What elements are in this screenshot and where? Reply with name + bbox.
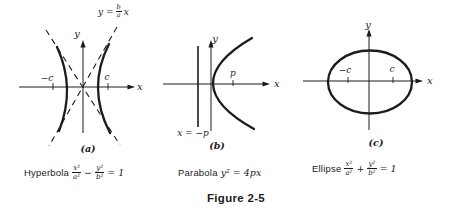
ellipse-y-axis-arrow-icon bbox=[366, 29, 371, 37]
ellipse-fraction-2: y² b² bbox=[367, 160, 376, 177]
caption-parabola-name: Parabola bbox=[178, 167, 218, 178]
parabola-directrix-label: x = −p bbox=[177, 128, 209, 138]
ellipse-frac1-denominator: a² bbox=[344, 168, 353, 177]
hyperbola-operator: − bbox=[84, 167, 92, 178]
hyperbola-equals-one: = 1 bbox=[107, 167, 124, 178]
ellipse-operator: + bbox=[356, 163, 364, 174]
parabola-plot: x y p x = −p (b) bbox=[163, 33, 280, 151]
hyperbola-plot: x y −c c (a) bbox=[19, 27, 143, 154]
caption-ellipse-name: Ellipse bbox=[312, 163, 341, 174]
parabola-p-label: p bbox=[230, 68, 236, 78]
ellipse-plot: x y −c c (c) bbox=[303, 19, 433, 148]
asymptote-fraction: b a bbox=[116, 4, 122, 20]
panel-a-label: (a) bbox=[80, 143, 95, 154]
ellipse-curve bbox=[328, 51, 412, 114]
asymptote-lhs: y = bbox=[98, 7, 114, 17]
hyperbola-frac2-numerator: y² bbox=[95, 164, 104, 172]
hyperbola-frac1-numerator: x² bbox=[72, 164, 81, 172]
caption-ellipse: Ellipse x² a² + y² b² = 1 bbox=[312, 160, 397, 177]
ellipse-frac2-denominator: b² bbox=[367, 168, 376, 177]
hyperbola-y-axis-label: y bbox=[73, 28, 80, 39]
caption-hyperbola-name: Hyperbola bbox=[24, 167, 69, 178]
hyperbola-c-label: c bbox=[104, 72, 109, 82]
caption-hyperbola: Hyperbola x² a² − y² b² = 1 bbox=[24, 164, 124, 181]
asymptote-equation: y = b a x bbox=[98, 4, 129, 20]
figure-2-5: x y −c c (a) x y p x = −p (b) bbox=[0, 0, 458, 214]
hyperbola-frac2-denominator: b² bbox=[95, 172, 104, 181]
panel-b-label: (b) bbox=[209, 140, 225, 151]
ellipse-y-axis-label: y bbox=[364, 19, 371, 30]
parabola-x-axis-arrow-icon bbox=[263, 81, 271, 86]
hyperbola-fraction-1: x² a² bbox=[72, 164, 81, 181]
ellipse-equals-one: = 1 bbox=[380, 163, 397, 174]
ellipse-frac1-numerator: x² bbox=[345, 160, 354, 168]
caption-parabola: Parabola y² = 4px bbox=[178, 167, 261, 178]
ellipse-fraction-1: x² a² bbox=[344, 160, 353, 177]
ellipse-c-label: c bbox=[389, 64, 394, 74]
hyperbola-fraction-2: y² b² bbox=[95, 164, 104, 181]
panel-c-label: (c) bbox=[369, 137, 384, 148]
ellipse-neg-c-label: −c bbox=[339, 65, 352, 75]
hyperbola-frac1-denominator: a² bbox=[72, 172, 81, 181]
asymptote-fraction-denominator: a bbox=[116, 11, 122, 19]
asymptote-rhs: x bbox=[124, 7, 129, 17]
asymptote-fraction-numerator: b bbox=[116, 4, 122, 11]
figure-title: Figure 2-5 bbox=[207, 192, 265, 204]
hyperbola-neg-c-label: −c bbox=[41, 73, 54, 83]
parabola-y-axis-label: y bbox=[211, 33, 218, 44]
ellipse-x-axis-label: x bbox=[427, 75, 433, 86]
hyperbola-y-axis-arrow-icon bbox=[80, 40, 85, 48]
conics-graphs: x y −c c (a) x y p x = −p (b) bbox=[0, 0, 458, 160]
ellipse-frac2-numerator: y² bbox=[368, 160, 377, 168]
parabola-x-axis-label: x bbox=[274, 78, 280, 89]
hyperbola-x-axis-arrow-icon bbox=[128, 84, 136, 89]
parabola-formula: y² = 4px bbox=[221, 167, 262, 178]
ellipse-x-axis-arrow-icon bbox=[416, 78, 424, 83]
hyperbola-x-axis-label: x bbox=[137, 81, 143, 92]
